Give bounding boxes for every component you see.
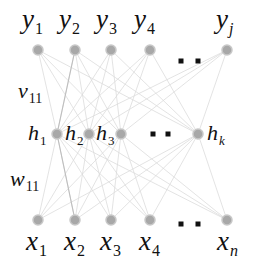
node-h1 (52, 129, 62, 139)
ellipsis-dot (179, 222, 184, 227)
node-h3 (116, 129, 126, 139)
label-h3: h3 (96, 122, 115, 147)
label-y2: y2 (59, 6, 80, 37)
label-y3: y3 (96, 6, 117, 37)
node-hk (193, 129, 203, 139)
ellipsis-dot (179, 59, 184, 64)
node-x1 (33, 215, 43, 225)
label-y1: y1 (22, 6, 43, 37)
label-hk: hk (207, 122, 225, 147)
node-h2 (84, 129, 94, 139)
node-xn (222, 215, 232, 225)
label-x1: x1 (26, 228, 47, 259)
node-x4 (145, 215, 155, 225)
node-x2 (70, 215, 80, 225)
node-yj (222, 45, 232, 55)
edge-y3-hk (111, 50, 198, 134)
edge-hk-x3 (111, 134, 198, 220)
label-x4: x4 (139, 228, 160, 259)
label-y4: y4 (134, 6, 155, 37)
node-x3 (106, 215, 116, 225)
node-y4 (145, 45, 155, 55)
label-x2: x2 (64, 228, 85, 259)
neural-network-diagram: y1 y2 y3 y4 yj v11 w11 h1 h2 h3 hk x1 x2… (0, 0, 255, 267)
label-x3: x3 (100, 228, 121, 259)
ellipsis-dot (166, 132, 171, 137)
label-yj: yj (216, 6, 233, 37)
ellipsis-dot (151, 132, 156, 137)
node-y3 (106, 45, 116, 55)
label-h2: h2 (65, 122, 84, 147)
network-nodes (33, 45, 232, 225)
node-y2 (70, 45, 80, 55)
label-h1: h1 (28, 122, 47, 147)
ellipsis-dot (196, 222, 201, 227)
node-y1 (33, 45, 43, 55)
ellipsis-dot (196, 59, 201, 64)
label-xn: xn (217, 228, 238, 259)
weight-label-w11: w11 (10, 168, 39, 194)
weight-label-v11: v11 (18, 80, 42, 106)
